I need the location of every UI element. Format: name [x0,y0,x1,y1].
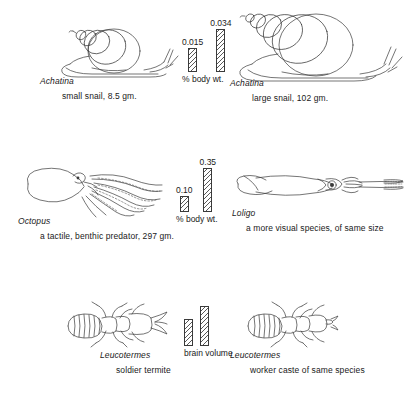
figure-row-snails: Achatina small snail, 8.5 gm. 0.015 0.03… [0,0,407,140]
bar-value-label: 0.015 [182,37,203,47]
description-label: soldier termite [100,360,171,375]
bar-item: 0.015 [182,37,203,72]
worker-termite-drawing [240,300,348,352]
caption-worker-termite: Leucotermes worker caste of same species [230,350,365,375]
description-label: worker caste of same species [230,360,365,375]
bar-item: 0.35 [200,157,217,212]
octopus-drawing [18,158,178,220]
caption-large-snail: Achatina large snail, 102 gm. [230,78,328,103]
caption-small-snail: Achatina small snail, 8.5 gm. [40,76,137,101]
bar-octopus [180,196,189,212]
bar-soldier-termite [184,319,193,346]
bar-large-snail [216,29,225,72]
caption-octopus: Octopus a tactile, benthic predator, 297… [18,216,174,241]
loligo-squid-drawing [232,166,404,212]
caption-loligo: Loligo a more visual species, of same si… [232,208,384,233]
genus-label: Achatina [230,78,328,88]
soldier-termite-drawing [60,300,172,352]
chart-cephalopod-brain-percent: 0.10 0.35 % body wt. [176,152,232,224]
small-snail-drawing [40,18,180,80]
bar-group: 0.015 0.034 [182,18,232,72]
bar-worker-termite [200,306,209,346]
figure-row-termites: Leucotermes soldier termite brain volume [0,290,407,401]
bar-item [184,318,193,346]
chart-axis-label: % body wt. [182,74,224,84]
genus-label: Octopus [18,216,174,226]
figure-row-cephalopods: Octopus a tactile, benthic predator, 297… [0,140,407,290]
bar-value-label: 0.35 [200,157,217,167]
description-label: small snail, 8.5 gm. [40,86,137,101]
large-snail-drawing [228,8,404,84]
description-label: a tactile, benthic predator, 297 gm. [18,226,174,241]
genus-label: Leucotermes [100,350,171,360]
bar-group: 0.10 0.35 [176,157,216,212]
bar-group [184,305,209,346]
bar-item [200,305,209,346]
genus-label: Achatina [40,76,137,86]
description-label: a more visual species, of same size [232,218,384,233]
caption-soldier-termite: Leucotermes soldier termite [100,350,171,375]
bar-loligo [203,168,212,212]
chart-axis-label: brain volume [184,348,233,358]
description-label: large snail, 102 gm. [230,88,328,103]
bar-small-snail [188,48,197,72]
chart-axis-label: % body wt. [176,214,218,224]
bar-value-label: 0.10 [176,185,193,195]
bar-item: 0.10 [176,185,193,212]
comparative-brain-figure: Achatina small snail, 8.5 gm. 0.015 0.03… [0,0,407,401]
chart-termite-brain-volume: brain volume [184,298,240,358]
genus-label: Loligo [232,208,384,218]
genus-label: Leucotermes [230,350,365,360]
